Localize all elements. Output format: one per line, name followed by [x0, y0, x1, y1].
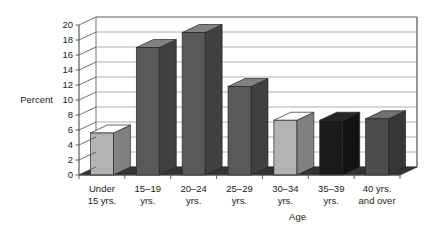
y-tick-label: 12 — [62, 79, 73, 90]
bar-front-face — [274, 120, 297, 175]
y-tick-connector — [79, 122, 96, 130]
x-tick-label: 15–19 — [135, 183, 161, 194]
bar-column — [320, 112, 360, 175]
y-tick-label: 4 — [68, 139, 73, 150]
x-tick-label: yrs. — [232, 195, 247, 206]
y-axis-title: Percent — [20, 94, 53, 105]
y-tick-connector — [79, 32, 96, 40]
bar-front-face — [228, 87, 251, 176]
y-tick-connector — [79, 17, 96, 25]
bar-side-face — [389, 111, 406, 175]
y-tick-connector — [79, 107, 96, 115]
y-tick-label: 10 — [62, 94, 73, 105]
y-tick-connector — [79, 47, 96, 55]
bar-front-face — [320, 120, 343, 175]
x-tick-label: yrs. — [278, 195, 293, 206]
x-tick-label: yrs. — [186, 195, 201, 206]
x-tick-label: yrs. — [140, 195, 155, 206]
y-tick-label: 16 — [62, 49, 73, 60]
x-tick-label: yrs. — [324, 195, 339, 206]
x-axis-title: Age — [289, 211, 306, 222]
x-tick-label: 40 yrs. — [363, 183, 392, 194]
bar-column — [228, 79, 268, 176]
bar-column — [136, 40, 176, 176]
bar-front-face — [136, 48, 159, 176]
bar-front-face — [182, 33, 205, 176]
bar-column — [274, 112, 314, 175]
x-tick-label: 20–24 — [180, 183, 206, 194]
bar-chart-3d: 02468101214161820Under15 yrs.15–19yrs.20… — [0, 0, 430, 237]
chart-figure: 02468101214161820Under15 yrs.15–19yrs.20… — [0, 0, 430, 237]
bar-side-face — [159, 40, 176, 176]
bar-side-face — [205, 25, 222, 176]
y-tick-connector — [79, 92, 96, 100]
bar-side-face — [251, 79, 268, 176]
bar-side-face — [343, 112, 360, 175]
bar-front-face — [366, 119, 389, 175]
bar-column — [90, 125, 130, 175]
x-tick-label: 30–34 — [272, 183, 298, 194]
bar-front-face — [90, 133, 113, 175]
x-tick-label: and over — [359, 195, 396, 206]
x-tick-label: 25–29 — [226, 183, 252, 194]
y-tick-label: 2 — [68, 154, 73, 165]
x-tick-label: 35–39 — [318, 183, 344, 194]
bar-side-face — [113, 125, 130, 175]
y-tick-label: 8 — [68, 109, 73, 120]
y-tick-label: 18 — [62, 34, 73, 45]
y-tick-label: 6 — [68, 124, 73, 135]
bar-column — [366, 111, 406, 175]
y-tick-label: 0 — [68, 169, 73, 180]
bar-side-face — [297, 112, 314, 175]
bar-column — [182, 25, 222, 176]
x-tick-label: 15 yrs. — [88, 195, 117, 206]
y-tick-label: 14 — [62, 64, 73, 75]
y-tick-label: 20 — [62, 19, 73, 30]
y-tick-connector — [79, 62, 96, 70]
y-tick-connector — [79, 77, 96, 85]
x-tick-label: Under — [89, 183, 115, 194]
